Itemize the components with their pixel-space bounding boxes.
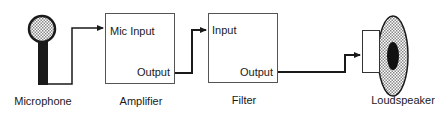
loudspeaker-label: Loudspeaker (371, 95, 435, 106)
microphone-label: Microphone (14, 96, 71, 107)
loudspeaker-icon (363, 16, 409, 96)
microphone-head (29, 16, 55, 42)
amplifier-output-port-label: Output (137, 67, 170, 78)
amplifier-input-port-label: Mic Input (110, 26, 155, 37)
filter-output-port-label: Output (240, 67, 273, 78)
wire-amplifier-to-filter (175, 30, 206, 73)
amplifier-label: Amplifier (120, 96, 163, 107)
filter-label: Filter (232, 95, 256, 106)
filter-input-port-label: Input (212, 25, 236, 36)
loudspeaker-center (387, 42, 399, 70)
wire-filter-to-loudspeaker (278, 55, 360, 72)
wire-mic-to-amplifier (48, 28, 103, 84)
microphone-handle (38, 40, 48, 85)
loudspeaker-magnet (363, 31, 380, 73)
microphone-icon (29, 16, 55, 85)
